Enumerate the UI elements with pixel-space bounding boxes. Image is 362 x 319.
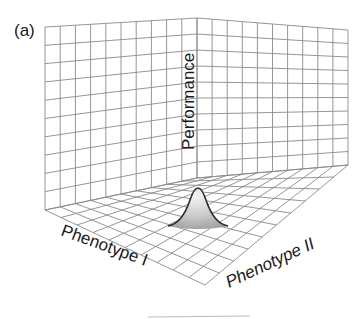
left-wall-grid [45, 18, 197, 210]
panel-label: (a) [14, 21, 35, 40]
cropped-edge-line [148, 316, 250, 317]
right-wall-grid [197, 18, 348, 178]
y-axis-label: Phenotype II [223, 234, 318, 292]
z-axis-label: Performance [179, 53, 198, 150]
gaussian-peak [168, 188, 228, 229]
performance-landscape-figure: (a) Performance Phenotype I Phenotype II [0, 0, 362, 319]
